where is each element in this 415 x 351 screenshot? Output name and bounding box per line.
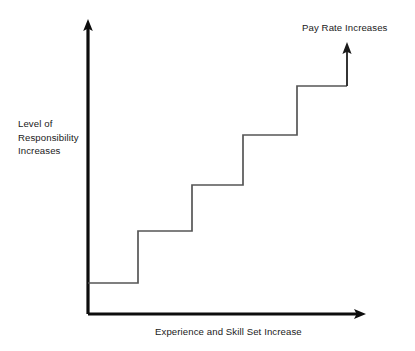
x-axis-label: Experience and Skill Set Increase (155, 325, 302, 339)
staircase-chart (0, 0, 415, 351)
staircase-steps (88, 86, 347, 283)
pay-rate-increases-label: Pay Rate Increases (302, 21, 388, 35)
y-axis-label: Level of Responsibility Increases (18, 117, 79, 158)
career-ladder-figure: Level of Responsibility Increases Experi… (0, 0, 415, 351)
